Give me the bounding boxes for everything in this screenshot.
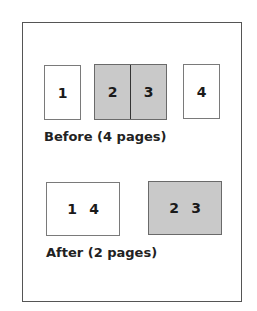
page-number: 4: [89, 201, 99, 217]
page-number: 2: [169, 200, 179, 216]
before-page-1: 1: [44, 65, 81, 120]
before-page-4: 4: [183, 64, 220, 119]
page-number: 3: [191, 200, 201, 216]
page-number: 4: [197, 84, 207, 100]
before-page-2: 2: [95, 65, 130, 119]
page-number: 1: [67, 201, 77, 217]
page-number: 2: [108, 84, 118, 100]
before-caption: Before (4 pages): [44, 129, 166, 144]
after-sheet-1-4: 1 4: [46, 182, 120, 236]
before-spread-2-3: 2 3: [94, 64, 167, 120]
page-number: 1: [58, 85, 68, 101]
page-number: 3: [144, 84, 154, 100]
after-sheet-2-3: 2 3: [148, 181, 222, 235]
after-caption: After (2 pages): [46, 245, 157, 260]
before-page-3: 3: [130, 65, 166, 119]
